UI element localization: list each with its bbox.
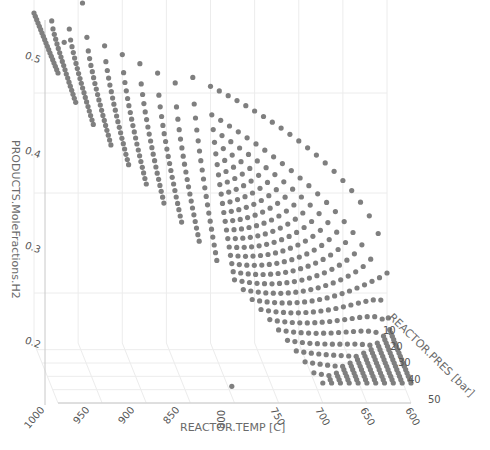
- data-point: [306, 183, 311, 188]
- data-point: [257, 186, 262, 191]
- data-point: [54, 41, 59, 46]
- data-point: [245, 135, 250, 140]
- data-point: [363, 299, 368, 304]
- tick-labels: 0.20.30.40.51000950900850800750700650600…: [22, 49, 441, 430]
- data-point: [117, 125, 122, 130]
- data-point: [88, 113, 93, 118]
- data-point: [291, 202, 296, 207]
- data-point: [213, 250, 218, 255]
- data-point: [149, 145, 154, 150]
- data-point: [239, 279, 244, 284]
- data-point: [282, 259, 287, 264]
- data-point: [315, 191, 320, 196]
- data-point: [244, 205, 249, 210]
- data-point: [360, 342, 365, 347]
- data-point: [294, 230, 299, 235]
- data-point: [225, 236, 230, 241]
- data-point: [298, 266, 303, 271]
- data-point: [255, 233, 260, 238]
- data-point: [187, 191, 192, 196]
- data-point: [238, 270, 243, 275]
- data-point: [317, 297, 322, 302]
- data-point: [182, 162, 187, 167]
- data-point: [280, 248, 285, 253]
- data-point: [235, 253, 240, 258]
- data-point: [314, 331, 319, 336]
- data-point: [163, 139, 168, 144]
- data-point: [371, 297, 376, 302]
- data-point: [273, 309, 278, 314]
- data-point: [290, 320, 295, 325]
- data-point: [96, 97, 101, 102]
- data-point: [352, 251, 357, 256]
- data-point: [50, 26, 55, 31]
- data-point: [166, 154, 171, 159]
- data-point: [237, 145, 242, 150]
- data-point: [49, 18, 54, 23]
- data-point: [118, 130, 123, 135]
- data-point: [256, 290, 261, 295]
- data-point: [258, 253, 263, 258]
- data-point: [125, 96, 130, 101]
- data-point: [230, 153, 235, 158]
- data-point: [391, 380, 396, 385]
- data-point: [162, 131, 167, 136]
- data-point: [320, 380, 325, 385]
- data-point: [356, 301, 361, 306]
- data-point: [223, 219, 228, 224]
- data-point: [382, 380, 387, 385]
- data-point: [296, 310, 301, 315]
- data-point: [241, 287, 246, 292]
- data-point: [293, 290, 298, 295]
- data-point: [326, 307, 331, 312]
- data-point: [246, 225, 251, 230]
- data-point: [329, 330, 334, 335]
- data-point: [367, 213, 372, 218]
- data-point: [174, 104, 179, 109]
- data-point: [316, 351, 321, 356]
- data-point: [124, 88, 129, 93]
- data-point: [249, 244, 254, 249]
- data-point: [295, 242, 300, 247]
- data-point: [206, 211, 211, 216]
- data-point: [308, 203, 313, 208]
- data-point: [189, 199, 194, 204]
- data-point: [102, 43, 107, 48]
- data-point: [278, 291, 283, 296]
- data-point: [106, 133, 111, 138]
- data-point: [216, 172, 221, 177]
- data-point: [73, 61, 78, 66]
- data-point: [214, 258, 219, 263]
- data-point: [364, 380, 369, 385]
- data-point: [376, 231, 381, 236]
- data-point: [229, 209, 234, 214]
- data-point: [311, 370, 316, 375]
- data-point: [239, 226, 244, 231]
- data-point: [234, 245, 239, 250]
- data-point: [272, 240, 277, 245]
- scatter-3d-chart[interactable]: 0.20.30.40.51000950900850800750700650600…: [0, 0, 490, 450]
- data-point: [291, 268, 296, 273]
- data-point: [211, 127, 216, 132]
- data-points: [31, 0, 413, 389]
- data-point: [306, 331, 311, 336]
- data-point: [87, 108, 92, 113]
- data-point: [265, 180, 270, 185]
- data-point: [367, 343, 372, 348]
- data-point: [100, 113, 105, 118]
- data-point: [259, 263, 264, 268]
- data-point: [337, 263, 342, 268]
- data-point: [299, 278, 304, 283]
- data-point: [75, 66, 80, 71]
- data-point: [114, 113, 119, 118]
- data-point: [213, 151, 218, 156]
- data-point: [218, 118, 223, 123]
- data-point: [193, 115, 198, 120]
- data-point: [307, 276, 312, 281]
- data-point: [277, 281, 282, 286]
- data-point: [236, 129, 241, 134]
- data-point: [353, 269, 358, 274]
- data-point: [194, 127, 199, 132]
- data-point: [312, 320, 317, 325]
- data-point: [130, 123, 135, 128]
